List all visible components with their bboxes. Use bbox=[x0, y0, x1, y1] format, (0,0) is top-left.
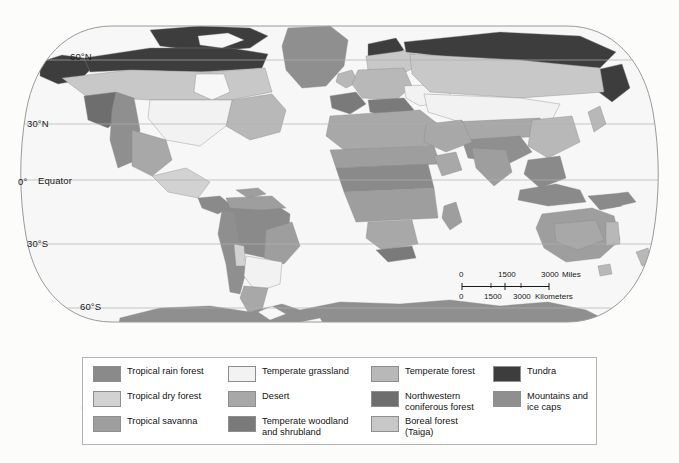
lat-label-30n: 30°N bbox=[27, 118, 49, 129]
lat-label-30s: 30°S bbox=[27, 238, 48, 249]
scale-km-tick-0: 0 bbox=[459, 292, 463, 301]
legend-item-northwestern-coniferous-forest: Northwestern coniferous forest bbox=[371, 390, 493, 415]
world-biomes-map: 60°N 30°N 0° Equator 30°S 60°S 0 1500 30… bbox=[0, 0, 679, 348]
legend-item-label: Tropical savanna bbox=[127, 415, 197, 427]
legend-swatch-icon bbox=[93, 416, 121, 432]
legend-swatch-icon bbox=[228, 366, 256, 382]
legend-item-label: Temperate woodland and shrubland bbox=[262, 415, 348, 437]
legend-item-label: Temperate grassland bbox=[262, 365, 349, 377]
legend-item-temperate-forest: Temperate forest bbox=[371, 365, 493, 390]
lat-label-0: 0° bbox=[18, 176, 27, 187]
page-root: 60°N 30°N 0° Equator 30°S 60°S 0 1500 30… bbox=[0, 0, 679, 463]
legend-item-label: Tropical dry forest bbox=[127, 390, 201, 402]
scale-km-tick-3000: 3000 bbox=[513, 292, 531, 301]
lat-label-equator: Equator bbox=[38, 175, 72, 186]
map-legend: Tropical rain forest Temperate grassland… bbox=[82, 357, 597, 445]
lat-label-60n: 60°N bbox=[70, 51, 92, 62]
legend-item-label: Temperate forest bbox=[405, 365, 475, 377]
legend-item-tropical-savanna: Tropical savanna bbox=[93, 415, 228, 440]
legend-item-tropical-dry-forest: Tropical dry forest bbox=[93, 390, 228, 415]
legend-item-label: Tundra bbox=[527, 365, 556, 377]
legend-item-label: Northwestern coniferous forest bbox=[405, 390, 474, 412]
legend-item-label: Mountains and ice caps bbox=[527, 390, 588, 412]
legend-swatch-icon bbox=[93, 391, 121, 407]
legend-item-mountains-and-ice-caps: Mountains and ice caps bbox=[493, 390, 593, 415]
legend-item-boreal-forest-taiga: Boreal forest (Taiga) bbox=[371, 415, 493, 440]
scale-row-kilometers: 0 1500 3000 Kilometers bbox=[458, 292, 584, 304]
legend-swatch-icon bbox=[228, 391, 256, 407]
legend-grid: Tropical rain forest Temperate grassland… bbox=[93, 365, 588, 439]
scale-row-miles: 0 1500 3000 Miles bbox=[458, 270, 584, 282]
legend-swatch-icon bbox=[493, 391, 521, 407]
lat-label-60s: 60°S bbox=[80, 301, 101, 312]
legend-swatch-icon bbox=[371, 366, 399, 382]
scale-ruler-graphic bbox=[461, 283, 566, 290]
legend-item-temperate-woodland-and-shrubland: Temperate woodland and shrubland bbox=[228, 415, 371, 440]
legend-swatch-icon bbox=[493, 366, 521, 382]
legend-swatch-icon bbox=[371, 416, 399, 432]
scale-bar: 0 1500 3000 Miles 0 1500 3000 Kilometers bbox=[458, 270, 584, 304]
legend-item-tropical-rain-forest: Tropical rain forest bbox=[93, 365, 228, 390]
legend-item-label: Tropical rain forest bbox=[127, 365, 204, 377]
scale-km-unit: Kilometers bbox=[535, 292, 573, 301]
legend-swatch-icon bbox=[371, 391, 399, 407]
legend-item-tundra: Tundra bbox=[493, 365, 593, 390]
scale-miles-tick-1500: 1500 bbox=[498, 270, 516, 279]
scale-km-tick-1500: 1500 bbox=[484, 292, 502, 301]
scale-miles-tick-0: 0 bbox=[459, 270, 463, 279]
legend-item-temperate-grassland: Temperate grassland bbox=[228, 365, 371, 390]
legend-swatch-icon bbox=[228, 416, 256, 432]
legend-item-label: Boreal forest (Taiga) bbox=[405, 415, 458, 437]
legend-swatch-icon bbox=[93, 366, 121, 382]
scale-miles-tick-3000: 3000 bbox=[541, 270, 559, 279]
legend-item-desert: Desert bbox=[228, 390, 371, 415]
legend-item-label: Desert bbox=[262, 390, 289, 402]
scale-miles-unit: Miles bbox=[562, 270, 581, 279]
